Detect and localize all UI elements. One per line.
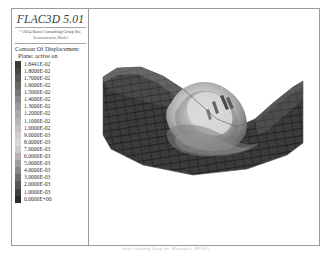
color-scale-row: 1.5000E-02 xyxy=(15,89,86,96)
color-scale-value: 1.6000E-02 xyxy=(21,82,50,89)
color-scale-value: 6.0000E-03 xyxy=(21,153,50,160)
color-scale-value: 0.0000E+00 xyxy=(21,196,52,203)
model-svg xyxy=(97,47,309,177)
legend-title: Contour Of Displacement xyxy=(15,45,86,52)
color-scale-value: 1.1000E-02 xyxy=(21,118,50,125)
slope-contour-model[interactable] xyxy=(97,47,309,177)
color-scale-value: 8.0000E-03 xyxy=(21,139,50,146)
model-viewport[interactable] xyxy=(89,9,319,245)
color-scale-value: 7.0000E-03 xyxy=(21,146,50,153)
color-scale-row: 9.0000E-03 xyxy=(15,132,86,139)
color-scale-row: 5.0000E-03 xyxy=(15,160,86,167)
color-scale-row: 8.0000E-03 xyxy=(15,139,86,146)
color-scale-row: 2.0000E-03 xyxy=(15,181,86,188)
color-scale-row: 7.0000E-03 xyxy=(15,146,86,153)
footer-caption: Itasca Consulting Group, Inc. Minneapoli… xyxy=(0,247,331,252)
color-scale-row: 0.0000E+00 xyxy=(15,196,86,203)
color-scale-row: 1.2000E-02 xyxy=(15,110,86,117)
color-scale-row: 1.1000E-02 xyxy=(15,118,86,125)
demo-model-label: Demonstration Model xyxy=(11,36,89,42)
color-scale-value: 2.0000E-03 xyxy=(21,181,50,188)
color-scale-value: 5.0000E-03 xyxy=(21,160,50,167)
legend-panel: FLAC3D 5.01 ©2014 Itasca Consulting Grou… xyxy=(12,9,88,245)
color-scale-row: 1.8000E-02 xyxy=(15,68,86,75)
flac3d-plot-window: FLAC3D 5.01 ©2014 Itasca Consulting Grou… xyxy=(0,0,331,258)
color-scale-value: 1.8000E-02 xyxy=(21,68,50,75)
color-scale-row: 1.3000E-02 xyxy=(15,103,86,110)
color-scale-value: 1.0000E-03 xyxy=(21,189,50,196)
legend-subtitle: Plane: active on xyxy=(15,52,86,59)
color-scale-value: 1.3000E-02 xyxy=(21,103,50,110)
color-scale-row: 1.4000E-02 xyxy=(15,96,86,103)
color-scale-list: 1.8441E-021.8000E-021.7000E-021.6000E-02… xyxy=(15,61,86,203)
color-scale-value: 1.5000E-02 xyxy=(21,89,50,96)
color-scale-value: 1.8441E-02 xyxy=(21,61,50,68)
copyright-text: ©2014 Itasca Consulting Group Inc. xyxy=(9,29,93,35)
color-scale-value: 1.2000E-02 xyxy=(21,110,50,117)
color-scale-row: 3.0000E-03 xyxy=(15,174,86,181)
header-rule xyxy=(15,43,86,44)
color-scale-row: 1.0000E-02 xyxy=(15,125,86,132)
color-scale-value: 1.4000E-02 xyxy=(21,96,50,103)
color-scale-value: 1.0000E-02 xyxy=(21,125,50,132)
color-scale-row: 1.7000E-02 xyxy=(15,75,86,82)
app-title: FLAC3D 5.01 xyxy=(15,13,86,26)
color-scale-value: 4.0000E-03 xyxy=(21,167,50,174)
color-scale-row: 1.8441E-02 xyxy=(15,61,86,68)
color-scale-row: 6.0000E-03 xyxy=(15,153,86,160)
color-scale-row: 4.0000E-03 xyxy=(15,167,86,174)
color-scale-row: 1.6000E-02 xyxy=(15,82,86,89)
color-scale-row: 1.0000E-03 xyxy=(15,189,86,196)
color-scale-value: 9.0000E-03 xyxy=(21,132,50,139)
title-rule xyxy=(15,27,86,28)
color-scale-value: 1.7000E-02 xyxy=(21,75,50,82)
color-scale-value: 3.0000E-03 xyxy=(21,174,50,181)
